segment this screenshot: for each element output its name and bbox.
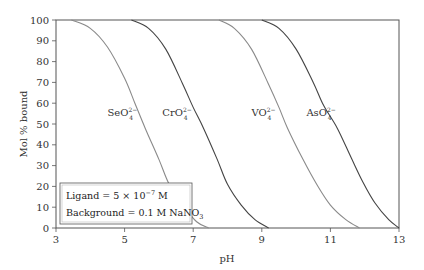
x-axis-ticks: 35791113 [53, 228, 406, 245]
legend-box: Ligand = 5 × 10−7 M Background = 0.1 M N… [60, 183, 203, 224]
chart: SeO2−4CrO2−4VO2−4AsO2−4 0102030405060708… [0, 0, 424, 270]
series-label: SeO2−4 [107, 106, 137, 121]
y-axis-title: Mol % bound [18, 90, 29, 158]
y-tick-label: 20 [36, 181, 49, 192]
y-tick-label: 10 [36, 202, 49, 213]
series-label: AsO2−4 [305, 106, 335, 121]
series-curve [219, 20, 360, 228]
y-tick-label: 0 [43, 223, 49, 234]
y-tick-label: 100 [30, 15, 49, 26]
y-tick-label: 30 [36, 160, 49, 171]
x-tick-label: 7 [190, 234, 196, 245]
x-tick-label: 11 [324, 234, 337, 245]
x-tick-label: 5 [121, 234, 127, 245]
y-axis-ticks: 0102030405060708090100 [30, 15, 56, 234]
y-tick-label: 70 [36, 77, 49, 88]
x-axis-title: pH [219, 253, 234, 264]
y-tick-label: 80 [36, 56, 49, 67]
y-tick-label: 90 [36, 35, 49, 46]
series-label: VO2−4 [251, 106, 276, 121]
x-tick-label: 13 [393, 234, 406, 245]
series-label: CrO2−4 [162, 106, 192, 121]
y-tick-label: 50 [36, 119, 49, 130]
y-tick-label: 60 [36, 98, 49, 109]
series-curve [262, 20, 399, 228]
y-tick-label: 40 [36, 139, 49, 150]
x-tick-label: 9 [259, 234, 265, 245]
x-tick-label: 3 [53, 234, 59, 245]
